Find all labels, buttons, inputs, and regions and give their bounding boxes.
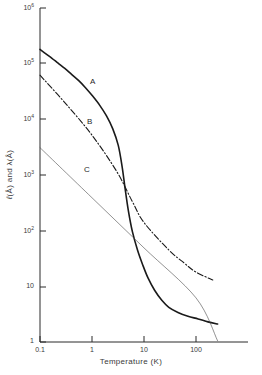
curve-label-c: C [84, 165, 90, 174]
x-tick-label-1: 1 [77, 346, 107, 353]
y-axis-ticks [40, 8, 46, 342]
x-axis-title: Temperature (K) [0, 357, 262, 366]
chart-canvas [0, 0, 262, 375]
y-axis-title: ℓ(Å) and λ(Å) [5, 110, 14, 240]
y-axis-symbol-ell: ℓ [5, 196, 14, 199]
y-axis-unit-2: (Å) [5, 150, 14, 162]
y-tick-label-1: 1 [8, 337, 34, 344]
y-tick-label-1e5: 105 [8, 57, 34, 66]
curve-a [40, 49, 218, 324]
figure: 106 105 104 103 102 10 1 0.1 1 10 100 Te… [0, 0, 262, 375]
data-curves [40, 49, 218, 340]
y-axis-unit-1: (Å) [5, 185, 14, 197]
x-tick-label-0.1: 0.1 [25, 346, 55, 353]
curve-c [40, 148, 218, 341]
y-tick-label-1e6: 106 [8, 2, 34, 11]
x-axis-ticks [40, 336, 196, 342]
curve-label-a: A [90, 77, 95, 86]
curve-label-b: B [87, 117, 92, 126]
y-tick-label-10: 10 [8, 282, 34, 289]
curve-b [40, 75, 213, 280]
y-axis-symbol-lambda: λ [5, 161, 14, 165]
x-tick-label-100: 100 [181, 346, 211, 353]
x-tick-label-10: 10 [129, 346, 159, 353]
y-axis-conjunction: and [5, 166, 14, 185]
